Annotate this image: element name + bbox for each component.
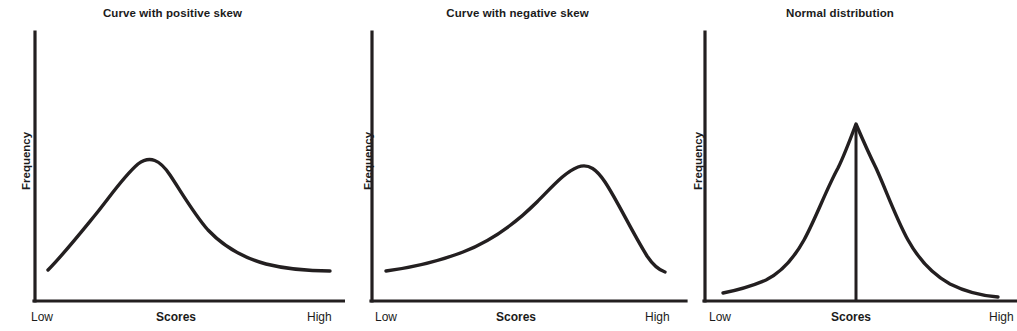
x-axis-label-scores: Scores <box>156 310 196 324</box>
x-tick-high: High <box>645 310 670 324</box>
plot-area-negative-skew <box>345 0 690 331</box>
x-axis-label-scores: Scores <box>496 310 536 324</box>
x-axis-label-scores: Scores <box>831 310 871 324</box>
x-tick-low: Low <box>709 310 731 324</box>
chart-panel-positive-skew: Curve with positive skew Frequency Low S… <box>0 0 345 331</box>
x-tick-high: High <box>307 310 332 324</box>
distribution-curve-positive-skew <box>48 160 330 271</box>
distribution-curve-negative-skew <box>386 166 665 272</box>
plot-area-positive-skew <box>0 0 345 331</box>
chart-panel-negative-skew: Curve with negative skew Frequency Low S… <box>345 0 690 331</box>
x-tick-high: High <box>989 310 1014 324</box>
chart-panel-normal-distribution: Normal distribution Frequency Low Scores… <box>690 0 1017 331</box>
distribution-curve-normal <box>723 124 998 297</box>
x-tick-low: Low <box>31 310 53 324</box>
distribution-curves-figure: Curve with positive skew Frequency Low S… <box>0 0 1017 331</box>
x-tick-low: Low <box>375 310 397 324</box>
plot-area-normal-distribution <box>690 0 1017 331</box>
